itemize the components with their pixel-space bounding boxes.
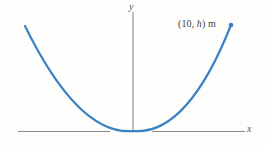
point-label-unit: m <box>208 18 216 29</box>
x-axis-label: x <box>247 124 251 134</box>
figure-canvas <box>0 0 265 145</box>
point-marker-dot <box>229 23 234 28</box>
y-axis-label: y <box>129 2 133 12</box>
parabola-figure: y x (10, h) m <box>0 0 265 145</box>
point-label-open: (10, <box>178 18 197 29</box>
parabola-curve <box>25 25 231 131</box>
point-coordinate-label: (10, h) m <box>178 19 216 29</box>
